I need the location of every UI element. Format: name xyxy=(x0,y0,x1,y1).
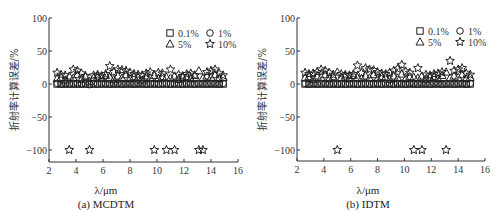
legend-star-icon xyxy=(206,39,215,47)
scatter-plot-idtm: 100500−50−100246810121416折射率计算误差/%0.1%1%… xyxy=(252,0,504,212)
x-tick-label: 16 xyxy=(233,165,243,176)
x-axis-label: λ/μm xyxy=(242,184,494,196)
y-tick-label: 50 xyxy=(37,46,47,57)
legend-label: 0.1% xyxy=(428,26,449,37)
chart-panel-idtm: 100500−50−100246810121416折射率计算误差/%0.1%1%… xyxy=(252,0,504,212)
y-tick-label: −50 xyxy=(31,112,47,123)
x-tick-label: 10 xyxy=(399,164,409,175)
y-tick-label: 0 xyxy=(42,79,47,90)
x-tick-label: 4 xyxy=(321,164,326,175)
data-point-10pct xyxy=(413,64,422,72)
legend-label: 5% xyxy=(178,39,191,50)
x-tick-label: 12 xyxy=(179,165,189,176)
data-point-10pct xyxy=(409,145,418,153)
x-tick-label: 6 xyxy=(101,165,106,176)
y-axis-label: 折射率计算误差/% xyxy=(8,49,20,132)
y-tick-label: 0 xyxy=(290,79,295,90)
data-point-10pct xyxy=(162,145,171,153)
data-point-10pct xyxy=(353,61,362,69)
y-tick-label: 100 xyxy=(32,13,47,24)
legend-label: 10% xyxy=(468,37,486,48)
data-point-10pct xyxy=(150,145,159,153)
x-tick-label: 4 xyxy=(74,165,79,176)
y-tick-label: 100 xyxy=(280,13,295,24)
legend-star-icon xyxy=(456,37,465,45)
x-tick-label: 16 xyxy=(480,164,490,175)
data-point-10pct xyxy=(418,145,427,153)
panel-caption: (a) MCDTM xyxy=(0,198,232,210)
y-tick-label: −50 xyxy=(279,112,295,123)
y-tick-label: −100 xyxy=(274,145,295,156)
legend-square-icon xyxy=(417,28,423,34)
x-tick-label: 14 xyxy=(453,164,463,175)
panel-caption: (b) IDTM xyxy=(242,198,494,210)
y-axis-label: 折射率计算误差/% xyxy=(256,48,268,131)
x-tick-label: 8 xyxy=(128,165,133,176)
data-point-10pct xyxy=(85,145,94,153)
y-tick-label: −100 xyxy=(26,145,47,156)
data-point-10pct xyxy=(170,145,179,153)
legend-circle-icon xyxy=(207,30,214,37)
x-tick-label: 2 xyxy=(295,164,300,175)
x-tick-label: 14 xyxy=(206,165,216,176)
x-tick-label: 2 xyxy=(47,165,52,176)
legend-triangle-icon xyxy=(166,40,174,47)
legend-circle-icon xyxy=(457,28,464,35)
legend-square-icon xyxy=(167,30,173,36)
scatter-plot-mcdtm: 100500−50−100246810121416折射率计算误差/%0.1%1%… xyxy=(0,0,252,212)
data-point-10pct xyxy=(333,145,342,153)
legend-triangle-icon xyxy=(416,38,424,45)
legend-label: 10% xyxy=(218,39,236,50)
x-tick-label: 8 xyxy=(375,164,380,175)
data-point-10pct xyxy=(446,56,455,64)
data-point-10pct xyxy=(65,145,74,153)
x-tick-label: 10 xyxy=(152,165,162,176)
x-tick-label: 12 xyxy=(426,164,436,175)
legend-label: 0.1% xyxy=(178,28,199,39)
y-tick-label: 50 xyxy=(285,46,295,57)
x-tick-label: 6 xyxy=(348,164,353,175)
legend-label: 5% xyxy=(428,37,441,48)
legend-label: 1% xyxy=(218,28,231,39)
data-point-10pct xyxy=(442,145,451,153)
legend-label: 1% xyxy=(468,26,481,37)
x-axis-label: λ/μm xyxy=(0,184,232,196)
chart-panel-mcdtm: 100500−50−100246810121416折射率计算误差/%0.1%1%… xyxy=(0,0,252,212)
